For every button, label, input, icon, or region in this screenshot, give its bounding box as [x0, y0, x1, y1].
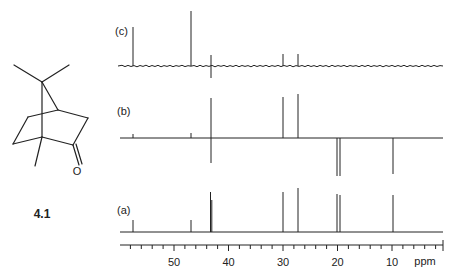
- tick-label-10: 10: [386, 256, 398, 268]
- spectrum-trace-c: (c): [115, 11, 443, 78]
- spectrum-trace-b: (b): [117, 94, 443, 176]
- trace-label-c: (c): [115, 25, 128, 37]
- trace-label-a: (a): [117, 204, 130, 216]
- nmr-figure: O 4.1 (c) (b) (a): [0, 0, 457, 279]
- camphor-structure: [13, 65, 88, 166]
- trace-label-b: (b): [117, 105, 130, 117]
- baseline-c: [118, 65, 443, 67]
- tick-label-50: 50: [168, 256, 180, 268]
- x-axis-labels: 50 40 30 20 10 ppm: [168, 255, 436, 268]
- oxygen-atom-label: O: [73, 165, 82, 177]
- tick-label-30: 30: [277, 256, 289, 268]
- tick-label-40: 40: [222, 256, 234, 268]
- tick-label-20: 20: [331, 256, 343, 268]
- compound-number: 4.1: [34, 207, 51, 221]
- x-axis: [120, 240, 443, 251]
- spectrum-trace-a: (a): [117, 188, 443, 232]
- x-axis-unit: ppm: [414, 255, 435, 267]
